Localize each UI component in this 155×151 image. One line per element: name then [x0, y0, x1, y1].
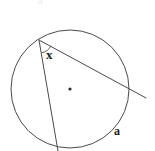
arc-label-a: a — [114, 125, 120, 137]
top-edge-artifact-label: a — [38, 0, 43, 6]
angle-label-x: x — [46, 48, 53, 61]
geometry-figure: a x a — [0, 0, 155, 151]
center-point-dot — [68, 87, 71, 90]
secant-line — [39, 40, 146, 98]
geometry-canvas — [0, 0, 155, 151]
